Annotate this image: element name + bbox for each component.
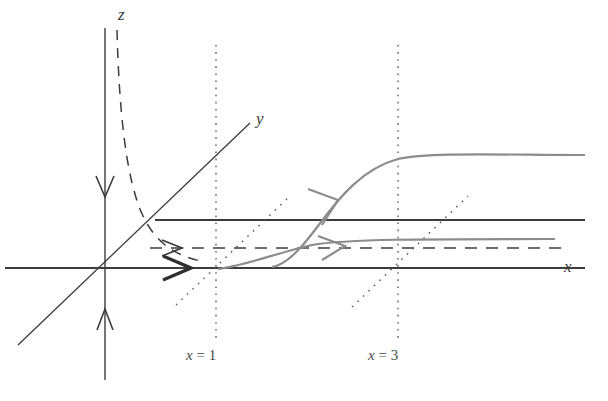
tick-label-x-equals-3: x = 3	[368, 348, 398, 363]
y-axis-label: y	[256, 110, 264, 127]
diagram-svg	[0, 0, 608, 401]
dotted-diagonal-x3	[352, 196, 468, 307]
dotted-diagonal-x1	[176, 196, 290, 305]
tick-x1-value: = 1	[193, 347, 216, 363]
x-axis-group	[5, 256, 585, 280]
upper-trajectory-curve	[272, 154, 585, 267]
tick-x1-variable: x	[186, 347, 193, 363]
z-axis-label: z	[118, 6, 125, 23]
tick-label-x-equals-1: x = 1	[186, 348, 216, 363]
lower-trajectory-curve	[218, 239, 555, 269]
y-axis-line	[18, 123, 250, 345]
tick-x3-value: = 3	[375, 347, 398, 363]
dashed-incoming-curve	[117, 30, 205, 262]
lower-trajectory-group	[218, 236, 555, 269]
z-axis-group	[96, 28, 114, 380]
y-axis-group	[18, 123, 250, 345]
dashed-separatrix-group	[150, 240, 565, 256]
tick-x3-variable: x	[368, 347, 375, 363]
x-axis-label: x	[564, 258, 572, 275]
upper-trajectory-group	[272, 154, 585, 267]
figure-canvas: z y x x = 1 x = 3	[0, 0, 608, 401]
